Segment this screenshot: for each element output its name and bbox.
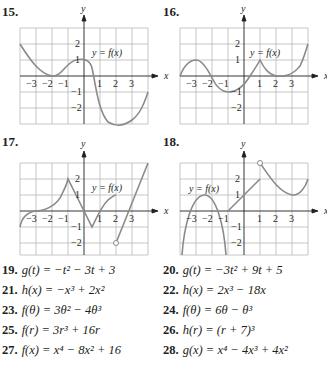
exercise-21: 21.h(x) = −x³ + 2x² <box>2 283 104 298</box>
exercise-number: 22. <box>163 283 179 297</box>
exercise-20: 20.g(t) = −3t² + 9t + 5 <box>163 263 283 278</box>
graph-16: xy y = f(x) −3−2−1 123 21−1−2 <box>160 0 327 130</box>
exercise-number: 24. <box>163 303 179 317</box>
open-point <box>114 241 119 246</box>
exercise-text: g(t) = −t² − 3t + 3 <box>22 263 116 277</box>
graph-17: xy y = f(x) −3−2−1 123 21−1−2 <box>0 130 165 255</box>
exercise-number: 20. <box>163 263 179 277</box>
svg-text:y: y <box>80 138 86 149</box>
exercise-25: 25.f(r) = 3r³ + 16r <box>2 323 100 338</box>
exercise-text: f(r) = 3r³ + 16r <box>22 323 100 337</box>
svg-text:2: 2 <box>75 38 80 49</box>
svg-text:y: y <box>80 3 86 14</box>
figure-18: 18. xy y = f(x) −3−2−1 123 21−1−2 <box>160 130 327 255</box>
exercise-number: 23. <box>2 303 18 317</box>
svg-text:1: 1 <box>235 54 240 65</box>
svg-text:−1: −1 <box>218 213 229 224</box>
svg-text:x: x <box>323 205 327 216</box>
figure-16: 16. xy y = f(x) −3−2−1 123 21−1−2 <box>160 0 327 130</box>
svg-text:2: 2 <box>273 213 278 224</box>
svg-text:−3: −3 <box>26 78 37 89</box>
exercise-number: 27. <box>2 343 18 357</box>
svg-text:−2: −2 <box>231 102 242 113</box>
svg-text:−1: −1 <box>231 86 242 97</box>
svg-text:−2: −2 <box>42 213 53 224</box>
exercise-number: 21. <box>2 283 18 297</box>
svg-text:−3: −3 <box>186 78 197 89</box>
svg-text:−3: −3 <box>26 213 37 224</box>
svg-text:1: 1 <box>235 189 240 200</box>
svg-text:1: 1 <box>257 78 262 89</box>
exercise-text: f(θ) = 3θ² − 4θ³ <box>22 303 102 317</box>
svg-text:2: 2 <box>113 213 118 224</box>
svg-text:3: 3 <box>289 78 294 89</box>
svg-text:−3: −3 <box>186 213 197 224</box>
exercise-text: f(θ) = 6θ − θ³ <box>183 303 253 317</box>
svg-text:−1: −1 <box>218 78 229 89</box>
svg-text:2: 2 <box>235 173 240 184</box>
exercise-number: 28. <box>163 343 179 357</box>
svg-text:1: 1 <box>75 189 80 200</box>
svg-text:2: 2 <box>113 78 118 89</box>
svg-text:y = f(x): y = f(x) <box>91 182 123 194</box>
svg-text:y = f(x): y = f(x) <box>249 47 281 59</box>
svg-text:−2: −2 <box>202 78 213 89</box>
svg-text:1: 1 <box>97 78 102 89</box>
graph-15: xy y = f(x) −3−2−1 123 21−1−2 <box>0 0 165 130</box>
svg-text:1: 1 <box>257 213 262 224</box>
open-point <box>258 161 263 166</box>
svg-text:3: 3 <box>129 78 134 89</box>
svg-text:1: 1 <box>75 54 80 65</box>
svg-text:y = f(x): y = f(x) <box>91 47 123 59</box>
svg-text:y: y <box>240 3 246 14</box>
svg-text:2: 2 <box>75 173 80 184</box>
exercise-28: 28.g(x) = x⁴ − 4x³ + 4x² <box>163 343 288 358</box>
svg-text:−2: −2 <box>71 102 82 113</box>
curve-parabola <box>182 195 226 255</box>
svg-text:y: y <box>240 138 246 149</box>
exercise-number: 25. <box>2 323 18 337</box>
svg-text:−1: −1 <box>58 78 69 89</box>
svg-text:y = f(x): y = f(x) <box>188 183 220 195</box>
exercise-text: h(x) = 2x³ − 18x <box>183 283 266 297</box>
exercise-text: h(x) = −x³ + 2x² <box>22 283 105 297</box>
graph-18: xy y = f(x) −3−2−1 123 21−1−2 <box>160 130 327 255</box>
svg-text:−1: −1 <box>231 221 242 232</box>
exercise-text: f(x) = x⁴ − 8x² + 16 <box>22 343 121 357</box>
exercise-22: 22.h(x) = 2x³ − 18x <box>163 283 266 298</box>
exercise-19: 19.g(t) = −t² − 3t + 3 <box>2 263 115 278</box>
exercise-27: 27.f(x) = x⁴ − 8x² + 16 <box>2 343 121 358</box>
svg-text:x: x <box>323 70 327 81</box>
exercise-number: 26. <box>163 323 179 337</box>
svg-text:−1: −1 <box>71 86 82 97</box>
svg-text:2: 2 <box>273 78 278 89</box>
exercise-text: g(t) = −3t² + 9t + 5 <box>183 263 283 277</box>
figure-17: 17. xy y = f(x) −3−2−1 123 21−1−2 <box>0 130 165 255</box>
exercise-24: 24.f(θ) = 6θ − θ³ <box>163 303 252 318</box>
svg-text:−2: −2 <box>231 237 242 248</box>
exercise-26: 26.h(r) = (r + 7)³ <box>163 323 255 338</box>
svg-text:−2: −2 <box>71 237 82 248</box>
svg-text:1: 1 <box>97 213 102 224</box>
exercise-number: 19. <box>2 263 18 277</box>
exercise-23: 23.f(θ) = 3θ² − 4θ³ <box>2 303 101 318</box>
svg-text:−1: −1 <box>58 213 69 224</box>
svg-text:−2: −2 <box>202 213 213 224</box>
figure-15: 15. xy y = f(x) −3−2−1 123 21−1−2 <box>0 0 165 130</box>
exercise-text: h(r) = (r + 7)³ <box>183 323 255 337</box>
exercise-text: g(x) = x⁴ − 4x³ + 4x² <box>183 343 288 357</box>
svg-text:−2: −2 <box>42 78 53 89</box>
svg-text:−1: −1 <box>71 221 82 232</box>
svg-text:2: 2 <box>235 38 240 49</box>
svg-text:3: 3 <box>289 213 294 224</box>
svg-text:3: 3 <box>129 213 134 224</box>
